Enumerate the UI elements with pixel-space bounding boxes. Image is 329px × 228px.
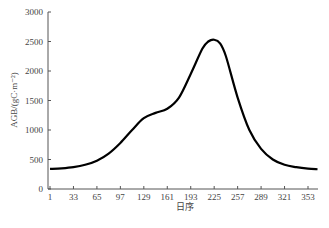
x-tick-label: 353 <box>301 192 315 202</box>
x-tick-label: 257 <box>231 192 245 202</box>
x-tick-label: 97 <box>116 192 126 202</box>
y-tick-label: 0 <box>39 184 44 194</box>
agb-line-chart: 050010001500200025003000 133659712916119… <box>0 0 329 228</box>
x-tick-label: 225 <box>207 192 221 202</box>
y-axis: 050010001500200025003000 <box>25 7 51 194</box>
y-tick-label: 3000 <box>25 7 44 17</box>
x-tick-label: 321 <box>278 192 292 202</box>
x-tick-label: 289 <box>254 192 268 202</box>
x-tick-label: 33 <box>69 192 79 202</box>
x-tick-label: 161 <box>161 192 175 202</box>
x-tick-label: 129 <box>137 192 151 202</box>
agb-series-line <box>50 40 318 170</box>
x-axis: 1336597129161193225257289321353 <box>48 186 318 202</box>
x-tick-label: 65 <box>92 192 102 202</box>
y-tick-label: 500 <box>30 155 44 165</box>
y-tick-label: 1000 <box>25 125 44 135</box>
x-axis-title: 日序 <box>176 201 194 212</box>
x-tick-label: 193 <box>184 192 198 202</box>
y-tick-label: 1500 <box>25 96 44 106</box>
y-tick-label: 2500 <box>25 37 44 47</box>
y-axis-title: AGB/(gC·m⁻²) <box>9 72 19 127</box>
y-tick-label: 2000 <box>25 66 44 76</box>
x-tick-label: 1 <box>48 192 53 202</box>
